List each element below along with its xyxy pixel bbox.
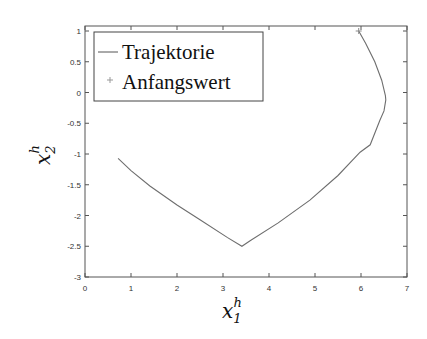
y-tick-label: -0.5 xyxy=(67,119,81,128)
x-tick-label: 2 xyxy=(175,284,180,293)
legend-label-anfangswert: Anfangswert xyxy=(122,70,231,94)
y-tick-label: -2.5 xyxy=(67,242,81,251)
legend: Trajektorie Anfangswert xyxy=(94,32,263,101)
y-tick-label: -2 xyxy=(74,212,82,221)
y-tick-label: -1.5 xyxy=(67,181,81,190)
x-tick-label: 7 xyxy=(405,284,410,293)
y-tick-label: 0.5 xyxy=(70,58,82,67)
x-tick-label: 5 xyxy=(313,284,318,293)
y-axis-label: x2h xyxy=(27,145,58,165)
x-tick-label: 0 xyxy=(83,284,88,293)
y-tick-label: 0 xyxy=(77,89,82,98)
y-tick-label: -3 xyxy=(74,273,82,282)
x-tick-label: 3 xyxy=(221,284,226,293)
x-tick-label: 1 xyxy=(129,284,134,293)
x-tick-label: 4 xyxy=(267,284,272,293)
x-axis-label: x1h xyxy=(222,295,242,326)
legend-label-trajektorie: Trajektorie xyxy=(122,40,215,64)
y-tick-label: 1 xyxy=(77,27,82,36)
x-tick-label: 6 xyxy=(359,284,364,293)
trajectory-chart: 01234567 10.50-0.5-1-1.5-2-2.5-3 Trajekt… xyxy=(0,0,427,339)
y-tick-label: -1 xyxy=(74,150,82,159)
